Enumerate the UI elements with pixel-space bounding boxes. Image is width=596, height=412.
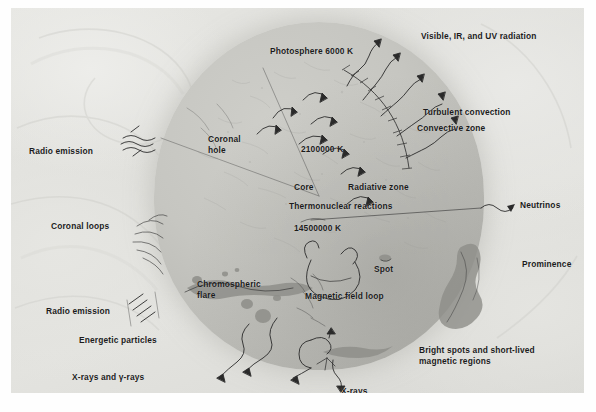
label-spot: Spot xyxy=(374,264,393,275)
label-temperature-convective-zone: 2100000 K xyxy=(301,144,343,155)
label-coronal-hole: Coronal hole xyxy=(208,134,241,155)
label-xrays: X-rays xyxy=(341,386,368,393)
label-radio-emission-top: Radio emission xyxy=(29,146,93,157)
coronal-loops-filaments xyxy=(133,215,167,274)
label-turbulent-convection: Turbulent convection xyxy=(423,107,511,118)
spot-marker xyxy=(379,255,391,262)
label-prominence: Prominence xyxy=(522,259,571,270)
scanned-plate: Photosphere 6000 K Visible, IR, and UV r… xyxy=(11,8,584,393)
energetic-particle-arrows xyxy=(217,318,277,382)
label-thermonuclear-reactions: Thermonuclear reactions xyxy=(289,201,393,212)
label-radiative-zone: Radiative zone xyxy=(348,182,409,193)
bright-spots-region xyxy=(291,328,393,392)
label-coronal-loops: Coronal loops xyxy=(51,221,109,232)
label-bright-spots: Bright spots and short-lived magnetic re… xyxy=(419,345,535,366)
label-magnetic-field-loop: Magnetic field loop xyxy=(305,291,384,302)
label-core: Core xyxy=(294,182,314,193)
label-chromospheric-flare: Chromospheric flare xyxy=(197,279,261,300)
label-photosphere: Photosphere 6000 K xyxy=(270,46,353,57)
convective-zone-boundary xyxy=(342,65,412,169)
label-radio-emission-bottom: Radio emission xyxy=(46,306,110,317)
label-temperature-core: 14500000 K xyxy=(294,223,341,234)
label-energetic-particles: Energetic particles xyxy=(79,335,157,346)
cutaway-radius-lines xyxy=(161,68,319,196)
label-visible-ir-uv-radiation: Visible, IR, and UV radiation xyxy=(421,31,536,42)
label-neutrinos: Neutrinos xyxy=(520,200,560,211)
radio-wave-icon-top xyxy=(121,126,155,156)
label-xrays-and-gamma-rays: X-rays and γ-rays xyxy=(72,372,144,383)
prominence-feature xyxy=(439,244,483,329)
label-convective-zone: Convective zone xyxy=(417,123,485,134)
radio-wave-icon-bottom xyxy=(127,292,159,326)
figure-page: Photosphere 6000 K Visible, IR, and UV r… xyxy=(0,0,596,412)
